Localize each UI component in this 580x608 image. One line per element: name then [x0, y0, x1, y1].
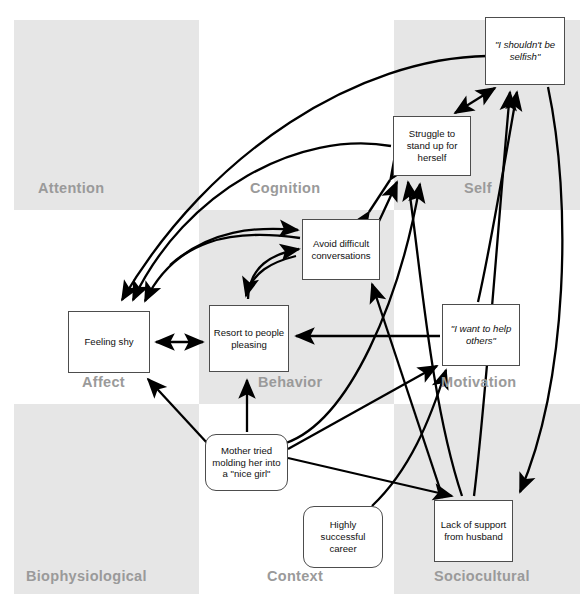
node-feeling-shy[interactable]: Feeling shy — [68, 311, 150, 373]
node-avoid-difficult-conversations[interactable]: Avoid difficult conversations — [302, 219, 380, 280]
node-mother-tried-molding[interactable]: Mother tried molding her into a "nice gi… — [205, 434, 288, 491]
edge-lack-to-avoid — [372, 284, 443, 498]
grid-cell-label-sociocultural: Sociocultural — [434, 568, 530, 584]
node-shouldnt-be-selfish[interactable]: "I shouldn't be selfish" — [485, 17, 565, 85]
grid-cell-label-behavior: Behavior — [258, 374, 322, 390]
diagram-canvas: "I shouldn't be selfish"Struggle to stan… — [0, 0, 580, 608]
grid-cell-label-affect: Affect — [82, 374, 125, 390]
node-label: Feeling shy — [84, 336, 133, 348]
node-lack-of-support-from-husband[interactable]: Lack of support from husband — [434, 500, 513, 562]
grid-cell-label-motivation: Motivation — [441, 374, 517, 390]
node-label: Avoid difficult conversations — [306, 238, 376, 262]
node-label: "I shouldn't be selfish" — [489, 39, 561, 63]
node-label: "I want to help others" — [446, 323, 516, 347]
node-struggle-to-stand-up[interactable]: Struggle to stand up for herself — [393, 116, 471, 176]
grid-cell-label-cognition: Cognition — [250, 180, 320, 196]
edge-help-to-selfish — [478, 92, 517, 302]
node-label: Lack of support from husband — [438, 519, 509, 543]
edge-mother-to-feelingshy — [148, 379, 208, 444]
node-label: Mother tried molding her into a "nice gi… — [209, 445, 284, 481]
node-label: Highly successful career — [307, 519, 379, 555]
edge-selfish-to-lack — [520, 87, 562, 492]
grid-cell-label-attention: Attention — [38, 180, 104, 196]
node-resort-to-people-pleasing[interactable]: Resort to people pleasing — [209, 305, 289, 372]
node-label: Struggle to stand up for herself — [397, 128, 467, 164]
node-highly-successful-career[interactable]: Highly successful career — [303, 506, 383, 568]
grid-cell-label-biophysiological: Biophysiological — [26, 568, 147, 584]
node-label: Resort to people pleasing — [213, 327, 285, 351]
node-i-want-to-help-others[interactable]: "I want to help others" — [442, 304, 520, 366]
edge-mother-to-lack — [288, 458, 452, 496]
edge-struggle-avoid-double — [369, 180, 390, 212]
edge-long-into-avoid — [170, 229, 298, 265]
edge-selfish-struggle-double — [455, 88, 495, 113]
grid-cell-label-self: Self — [464, 180, 492, 196]
grid-cell-label-context: Context — [267, 568, 323, 584]
